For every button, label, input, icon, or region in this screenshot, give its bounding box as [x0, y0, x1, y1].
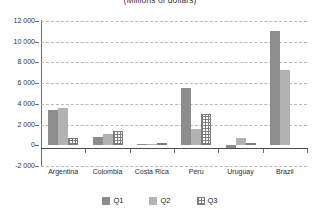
- bar-groups: [41, 21, 307, 166]
- x-axis-tick: [41, 149, 42, 153]
- bar-group: [137, 21, 167, 166]
- bar-q1: [270, 31, 280, 145]
- bar-q3: [157, 143, 167, 145]
- x-axis-tick: [307, 149, 308, 153]
- y-axis-tick: [35, 21, 39, 22]
- gridline: [41, 166, 307, 167]
- y-axis-tick-label: 0: [1, 141, 35, 148]
- chart-legend: Q1Q2Q3: [0, 197, 320, 205]
- legend-label: Q3: [208, 197, 218, 205]
- x-axis-tick-label: Argentina: [48, 168, 78, 175]
- bar-group: [93, 21, 123, 166]
- y-axis-tick-label: -2 000: [1, 162, 35, 169]
- bar-q2: [103, 134, 113, 145]
- y-axis-tick-label: 12 000: [1, 17, 35, 24]
- y-axis-tick: [35, 166, 39, 167]
- y-axis-tick: [35, 125, 39, 126]
- x-axis-tick: [218, 149, 219, 153]
- legend-item-q2[interactable]: Q2: [149, 197, 170, 205]
- bar-chart: (Millions of dollars) 12 00010 0008 0006…: [0, 0, 320, 219]
- bar-q2: [147, 144, 157, 145]
- legend-swatch-icon: [197, 197, 205, 205]
- x-axis-labels: ArgentinaColombiaCosta RicaPeruUruguayBr…: [41, 168, 307, 180]
- chart-title: (Millions of dollars): [0, 0, 320, 5]
- bar-q2: [280, 70, 290, 146]
- y-axis-tick: [35, 42, 39, 43]
- legend-label: Q1: [113, 197, 123, 205]
- y-axis-tick: [35, 104, 39, 105]
- legend-swatch-icon: [102, 197, 110, 205]
- x-axis-tick-label: Colombia: [93, 168, 123, 175]
- y-axis-tick-label: 8 000: [1, 58, 35, 65]
- legend-swatch-icon: [149, 197, 157, 205]
- bar-group: [181, 21, 211, 166]
- y-axis-tick: [35, 62, 39, 63]
- legend-item-q3[interactable]: Q3: [197, 197, 218, 205]
- y-axis-tick: [35, 83, 39, 84]
- x-axis-tick: [174, 149, 175, 153]
- bar-group: [226, 21, 256, 166]
- bar-q1: [93, 137, 103, 145]
- x-axis-tick: [263, 149, 264, 153]
- legend-item-q1[interactable]: Q1: [102, 197, 123, 205]
- y-axis-tick-label: 10 000: [1, 37, 35, 44]
- bar-q1: [181, 88, 191, 145]
- x-axis-tick-label: Brazil: [276, 168, 294, 175]
- bar-group: [270, 21, 300, 166]
- y-axis-tick-label: 2 000: [1, 120, 35, 127]
- bar-q2: [58, 108, 68, 146]
- x-axis-tick: [85, 149, 86, 153]
- y-axis-tick-label: 6 000: [1, 79, 35, 86]
- bar-q3: [246, 143, 256, 145]
- bar-q1: [48, 110, 58, 145]
- legend-label: Q2: [160, 197, 170, 205]
- bar-group: [48, 21, 78, 166]
- x-axis-tick: [130, 149, 131, 153]
- bar-q3: [68, 138, 78, 145]
- x-axis-tick-label: Uruguay: [227, 168, 253, 175]
- x-axis-tick-label: Peru: [189, 168, 204, 175]
- y-axis-tick: [35, 145, 39, 146]
- y-axis-labels: 12 00010 0008 0006 0004 0002 0000-2 000: [0, 21, 35, 166]
- x-axis-tick-label: Costa Rica: [135, 168, 169, 175]
- y-axis-tick-label: 4 000: [1, 99, 35, 106]
- bar-q1: [137, 144, 147, 145]
- bar-q2: [191, 129, 201, 146]
- bar-q2: [236, 138, 246, 145]
- bar-q3: [201, 114, 211, 145]
- bar-q3: [113, 131, 123, 146]
